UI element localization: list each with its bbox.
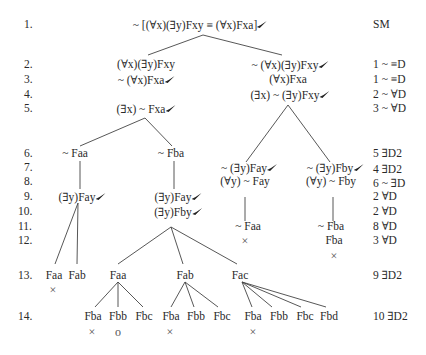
closed-branch-mark: × <box>331 250 338 262</box>
justification: 2 ∀D <box>373 205 397 218</box>
check-mark-icon <box>353 161 363 168</box>
formula: ~ (∃y)Fby <box>307 161 364 175</box>
tree-branch-lines <box>0 0 426 355</box>
formula: Fba <box>244 310 261 323</box>
closed-branch-mark: × <box>50 284 57 296</box>
justification: 10 ∃D2 <box>373 310 408 323</box>
justification: 3 ~ ∀D <box>373 102 406 115</box>
check-mark-icon <box>95 190 105 197</box>
line-number: 13. <box>18 269 32 282</box>
formula: Fac <box>232 269 249 282</box>
line-number: 12. <box>18 234 32 247</box>
formula: ~ Faa <box>235 220 261 233</box>
formula: (∃y)Fby <box>154 205 202 219</box>
closed-branch-mark: × <box>89 326 96 338</box>
formula: ~ Faa <box>62 147 88 160</box>
formula: ~ (∀x)Fxa <box>118 73 175 87</box>
formula: (∃x) ~ (∃y)Fxy <box>250 88 329 102</box>
justification: 6 ~ ∃D <box>373 177 405 190</box>
formula: Fab <box>176 269 193 282</box>
check-mark-icon <box>164 73 174 80</box>
check-mark-icon <box>192 205 202 212</box>
line-number: 14. <box>18 310 32 323</box>
formula: ~ Fba <box>158 147 184 160</box>
formula: Fab <box>68 269 85 282</box>
line-number: 5. <box>24 102 33 115</box>
formula: Fba <box>162 310 179 323</box>
line-number: 8. <box>24 175 33 188</box>
justification: 2 ∀D <box>373 190 397 203</box>
line-number: 2. <box>24 58 33 71</box>
closed-branch-mark: × <box>167 326 174 338</box>
line-number: 1. <box>24 18 33 31</box>
formula: Fbb <box>187 310 205 323</box>
check-mark-icon <box>320 88 330 95</box>
justification: 1 ~ ≡D <box>373 73 406 86</box>
open-branch-mark: o <box>115 326 121 338</box>
line-number: 3. <box>24 73 33 86</box>
formula: (∃y)Fay <box>155 190 202 204</box>
formula: Fbc <box>135 310 152 323</box>
formula: Fbc <box>213 310 230 323</box>
formula: (∃x) ~ Fxa <box>117 102 176 116</box>
justification: 1 ~ ≡D <box>373 58 406 71</box>
formula: Fbb <box>270 310 288 323</box>
formula: ~ (∀x)(∃y)Fxy <box>252 58 329 72</box>
closed-branch-mark: × <box>250 326 257 338</box>
justification: 3 ∀D <box>373 234 397 247</box>
check-mark-icon <box>165 102 175 109</box>
formula: Faa <box>110 269 127 282</box>
check-mark-icon <box>191 190 201 197</box>
line-number: 6. <box>24 147 33 160</box>
formula: Fba <box>325 234 342 247</box>
root-formula: ~ [(∀x)(∃y)Fxy ≡ (∀x)Fxa] <box>133 18 267 32</box>
justification: 2 ~ ∀D <box>373 88 406 101</box>
closed-branch-mark: × <box>242 235 249 247</box>
justification: 5 ∃D2 <box>373 147 402 160</box>
formula: ~ Fba <box>318 220 344 233</box>
formula: Faa <box>46 269 63 282</box>
formula: Fbc <box>296 310 313 323</box>
formula: Fba <box>84 310 101 323</box>
formula: (∀x)Fxa <box>269 73 307 86</box>
formula: Fbd <box>320 310 338 323</box>
justification: SM <box>373 18 390 31</box>
formula: (∃y)Fay <box>59 190 106 204</box>
line-number: 7. <box>24 161 33 174</box>
check-mark-icon <box>267 161 277 168</box>
check-mark-icon <box>319 58 329 65</box>
line-number: 10. <box>18 205 32 218</box>
line-number: 9. <box>24 190 33 203</box>
justification: 4 ∃D2 <box>373 163 402 176</box>
formula: Fbb <box>109 310 127 323</box>
formula: (∀y) ~ Fby <box>306 175 356 188</box>
line-number: 11. <box>18 220 32 233</box>
check-mark-icon <box>257 18 267 25</box>
formula: ~ (∃y)Fay <box>221 161 277 175</box>
formula: (∀x)(∃y)Fxy <box>117 58 175 71</box>
justification: 9 ∃D2 <box>373 269 402 282</box>
formula: (∀y) ~ Fay <box>220 175 270 188</box>
line-number: 4. <box>24 88 33 101</box>
justification: 8 ∀D <box>373 220 397 233</box>
